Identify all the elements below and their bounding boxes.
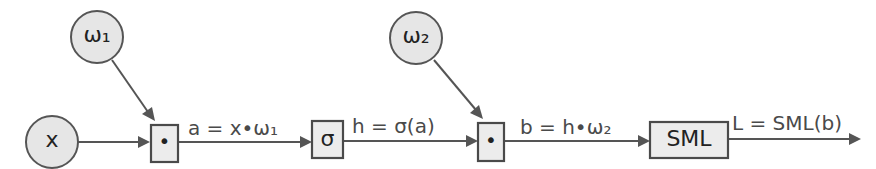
edge-label-l: L = SML(b) [732,113,842,133]
node-mul2-label: • [478,130,504,150]
node-sml-label: SML [650,128,728,150]
edge-w2-to-mul2 [434,60,483,119]
node-w2-label: ω₂ [390,25,442,47]
edge-label-h: h = σ(a) [352,116,435,136]
edge-label-b: b = h•ω₂ [520,117,611,137]
node-x-label: x [26,129,78,151]
edge-w1-to-mul1 [112,60,155,121]
edge-x-to-mul1 [78,136,150,148]
node-w1-label: ω₁ [71,24,123,46]
node-sigma-label: σ [312,128,343,150]
node-mul1-label: • [151,131,178,151]
edge-label-a: a = x•ω₁ [188,118,278,138]
